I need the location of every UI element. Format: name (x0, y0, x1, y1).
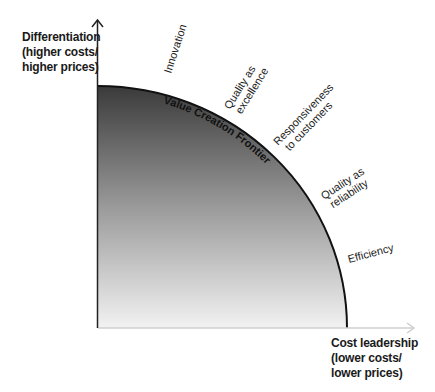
svg-text:Efficiency: Efficiency (346, 241, 395, 265)
y-axis-label-line: higher prices) (22, 60, 100, 75)
x-axis-label: Cost leadership (lower costs/ lower pric… (331, 336, 418, 381)
category-quality-reliability: Quality as reliability (319, 165, 374, 212)
svg-text:Innovation: Innovation (161, 23, 188, 75)
x-axis-label-line: Cost leadership (331, 336, 418, 351)
y-axis-label-line: Differentiation (22, 30, 100, 45)
category-quality-excellence: Quality as excellence (222, 59, 271, 117)
category-responsiveness: Responsiveness to customers (271, 81, 345, 156)
category-efficiency: Efficiency (346, 241, 395, 265)
y-axis-label-line: (higher costs/ (22, 45, 100, 60)
x-axis-label-line: (lower costs/ (331, 351, 418, 366)
y-axis-label: Differentiation (higher costs/ higher pr… (22, 30, 100, 75)
x-axis-label-line: lower prices) (331, 366, 418, 381)
category-innovation: Innovation (161, 23, 188, 75)
